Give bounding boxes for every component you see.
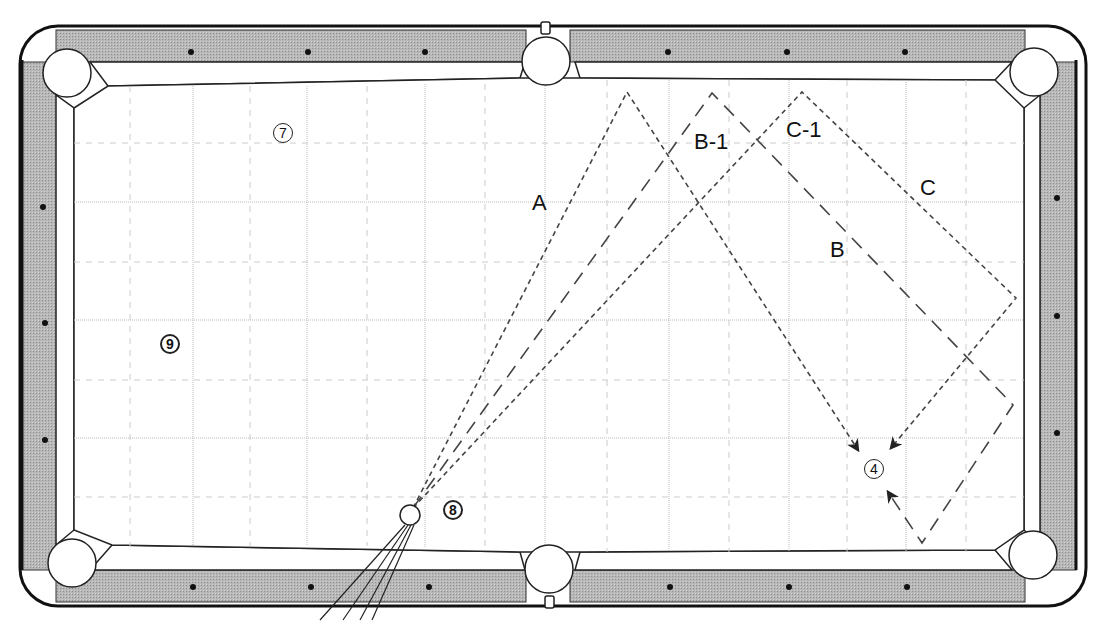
path-label-B1: B-1 (694, 131, 728, 153)
pool-table-diagram (0, 0, 1098, 622)
ball-7: 7 (273, 123, 293, 143)
path-label-C: C (920, 177, 936, 199)
pocket-top-left (43, 49, 91, 97)
rail-bottom-left (56, 570, 526, 602)
rail-bottom-right (570, 570, 1025, 602)
path-label-C1: C-1 (786, 119, 821, 141)
pocket-top-right (1010, 48, 1058, 96)
ball-9: 9 (160, 334, 180, 354)
cue-ball (400, 505, 420, 525)
playing-surface (74, 78, 1024, 552)
path-label-A: A (532, 192, 547, 214)
ball-4: 4 (864, 459, 884, 479)
pocket-bottom-center (525, 545, 573, 593)
pocket-bottom-left (48, 539, 96, 587)
rail-left (22, 62, 57, 570)
pocket-bottom-right (1009, 531, 1057, 579)
path-label-B: B (830, 239, 845, 261)
ball-8: 8 (443, 500, 463, 520)
rail-top-left (56, 30, 526, 62)
rail-top-right (570, 30, 1025, 62)
pocket-top-center (522, 37, 570, 85)
